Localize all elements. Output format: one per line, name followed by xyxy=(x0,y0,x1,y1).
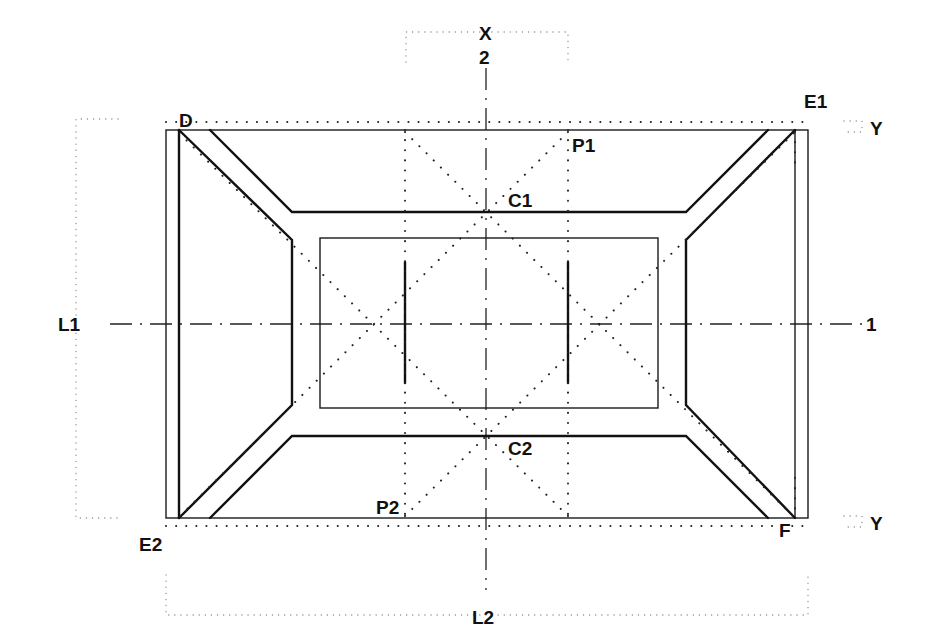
label-axis-x: X xyxy=(479,23,492,44)
label-point-P2: P2 xyxy=(376,497,399,518)
label-offset-Y-bottom: Y xyxy=(870,513,883,534)
label-dim-L1: L1 xyxy=(58,314,81,335)
member-top-left-inner xyxy=(210,130,768,212)
member-bottom-inner xyxy=(210,436,768,518)
label-corner-E2: E2 xyxy=(139,534,162,555)
dimension-bracket-L1 xyxy=(76,119,118,518)
label-axis-2: 2 xyxy=(479,47,490,68)
labels: X 2 1 D E1 E2 F P1 P2 C1 C2 L1 L2 Y Y xyxy=(58,23,883,628)
label-point-C1: C1 xyxy=(508,190,533,211)
label-corner-D: D xyxy=(179,110,193,131)
inner-panel xyxy=(320,238,658,408)
label-dim-L2: L2 xyxy=(472,607,494,628)
label-offset-Y-top: Y xyxy=(870,118,883,139)
dimension-bracket-Y-bottom xyxy=(844,516,862,527)
label-corner-E1: E1 xyxy=(804,91,828,112)
label-point-P1: P1 xyxy=(572,135,596,156)
label-corner-F: F xyxy=(779,520,791,541)
dimension-bracket-Y-top xyxy=(844,121,862,132)
label-axis-1: 1 xyxy=(866,314,877,335)
frame-diagram: X 2 1 D E1 E2 F P1 P2 C1 C2 L1 L2 Y Y xyxy=(0,0,938,643)
label-point-C2: C2 xyxy=(508,438,532,459)
